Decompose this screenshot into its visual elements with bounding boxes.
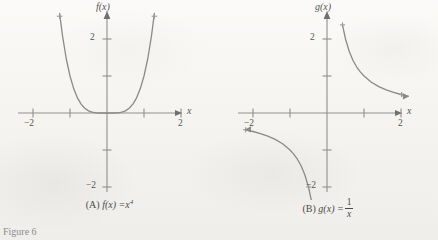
caption-b-denominator: x bbox=[345, 210, 354, 220]
plot-b-reciprocal bbox=[219, 0, 438, 200]
curve-endpoints-b bbox=[243, 22, 404, 189]
caption-b-numerator: 1 bbox=[345, 198, 354, 208]
panel-b: g(x) x −2 2 2 −2 (B) g(x) =1x bbox=[219, 0, 438, 240]
y-tick-label-b-neg2: −2 bbox=[306, 180, 316, 190]
curve-g-branch-positive bbox=[343, 25, 409, 96]
caption-b-lhs: g(x) = bbox=[318, 203, 343, 214]
x-axis-label-b: x bbox=[407, 105, 411, 116]
x-axis-label-a: x bbox=[187, 105, 191, 116]
x-tick-label-a-neg2: −2 bbox=[24, 118, 34, 128]
x-tick-label-b-pos2: 2 bbox=[398, 118, 403, 128]
curve-g-branch-negative bbox=[246, 130, 312, 200]
caption-b-fraction: 1x bbox=[345, 198, 354, 219]
figure-label: Figure 6 bbox=[3, 226, 37, 237]
caption-a-lhs: f(x) = bbox=[102, 199, 125, 210]
x-tick-label-a-pos2: 2 bbox=[178, 118, 183, 128]
x-tick-label-b-neg2: −2 bbox=[244, 118, 254, 128]
y-axis-arrow-b bbox=[324, 11, 331, 19]
y-tick-label-b-pos2: 2 bbox=[310, 32, 315, 42]
caption-b-tag: (B) bbox=[303, 203, 316, 214]
caption-b: (B) g(x) =1x bbox=[219, 198, 438, 219]
plot-a-quartic bbox=[0, 0, 219, 200]
y-tick-label-a-neg2: −2 bbox=[86, 180, 96, 190]
panel-a: f(x) x −2 2 2 −2 (A) f(x) =x4 bbox=[0, 0, 219, 240]
curve-b-arrow-right bbox=[403, 93, 409, 99]
y-axis-label-a: f(x) bbox=[96, 1, 110, 12]
caption-a-exponent: 4 bbox=[130, 198, 134, 206]
caption-a-tag: (A) bbox=[86, 199, 100, 210]
y-axis-label-b: g(x) bbox=[315, 1, 331, 12]
y-axis-arrow-a bbox=[104, 11, 111, 19]
caption-a: (A) f(x) =x4 bbox=[0, 198, 219, 210]
figure-page: f(x) x −2 2 2 −2 (A) f(x) =x4 bbox=[0, 0, 438, 240]
y-tick-label-a-pos2: 2 bbox=[90, 32, 95, 42]
